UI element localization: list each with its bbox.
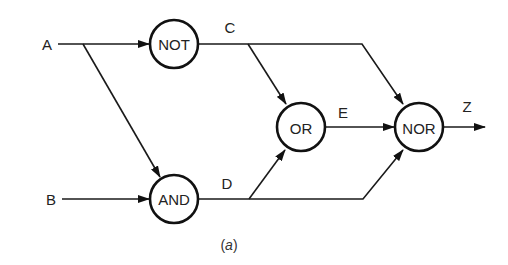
gate-or: OR: [277, 103, 325, 151]
wire-c-to-or: [248, 44, 286, 104]
figure-caption: (a): [220, 237, 237, 253]
signal-label-z: Z: [462, 98, 471, 115]
wire-d-to-or: [249, 150, 285, 199]
gate-or-label: OR: [290, 120, 313, 137]
logic-circuit-diagram: A B NOT AND OR NOR C D E Z (a): [0, 0, 508, 265]
caption-close-paren: ): [233, 237, 238, 253]
gate-not: NOT: [150, 20, 198, 68]
signal-label-d: D: [222, 175, 233, 192]
gate-and: AND: [150, 175, 198, 223]
signal-label-c: C: [225, 19, 236, 36]
caption-letter: a: [225, 237, 233, 253]
signal-label-e: E: [338, 104, 348, 121]
gate-nor: NOR: [395, 103, 443, 151]
input-label-b: B: [46, 191, 56, 208]
gate-nor-label: NOR: [402, 120, 436, 137]
gate-not-label: NOT: [158, 36, 190, 53]
wire-c-to-nor: [198, 44, 403, 104]
wire-a-to-and: [83, 44, 160, 177]
gate-and-label: AND: [158, 191, 190, 208]
input-label-a: A: [42, 36, 52, 53]
